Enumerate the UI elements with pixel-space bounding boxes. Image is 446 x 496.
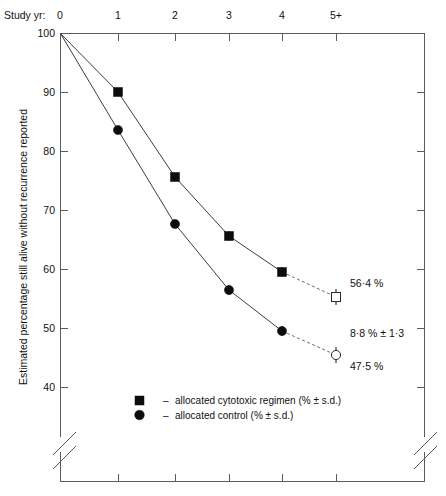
y-tick-label-90: 90 — [43, 86, 55, 98]
legend-marker-square-icon — [135, 396, 144, 405]
data-point-control-yr4 — [277, 326, 286, 335]
legend: – allocated cytotoxic regimen (% ± s.d.)… — [135, 395, 341, 421]
chart-canvas: Study yr: 0 1 2 3 4 5+ — [0, 0, 446, 496]
data-point-cytotoxic-yr4 — [278, 268, 287, 277]
data-point-cytotoxic-yr1 — [114, 88, 123, 97]
y-tick-label-60: 60 — [43, 263, 55, 275]
data-point-control-yr2 — [170, 219, 179, 228]
annotation-upper-endpoint: 56·4 % — [350, 277, 383, 289]
x-tick-label-4: 4 — [279, 9, 285, 21]
survival-curve-figure: Study yr: 0 1 2 3 4 5+ — [0, 0, 446, 496]
series-control — [61, 34, 341, 364]
data-point-cytotoxic-yr3 — [225, 232, 234, 241]
data-point-control-yr3 — [224, 285, 233, 294]
axis-break-left — [53, 432, 76, 469]
x-tick-label-3: 3 — [226, 9, 232, 21]
y-axis-ticks-left — [61, 93, 69, 388]
x-axis-title: Study yr: — [4, 9, 45, 21]
x-tick-label-1: 1 — [115, 9, 121, 21]
x-tick-label-5: 5+ — [330, 9, 342, 21]
series-cytotoxic-regimen — [61, 34, 341, 306]
y-axis-title: Estimated percentage still alive without… — [17, 109, 29, 385]
x-tick-label-2: 2 — [172, 9, 178, 21]
x-axis-ticks-top — [119, 34, 337, 42]
axis-break-right — [414, 432, 437, 469]
series-cytotoxic-dashed-line — [282, 272, 336, 297]
annotation-lower-endpoint: 47·5 % — [350, 360, 383, 372]
x-axis-ticks-bottom — [119, 474, 337, 482]
data-point-cytotoxic-yr5plus — [332, 293, 341, 302]
legend-label-control: allocated control (% ± s.d.) — [175, 410, 293, 421]
legend-dash-0: – — [163, 395, 169, 406]
y-tick-label-100: 100 — [37, 27, 55, 39]
series-control-dashed-line — [282, 331, 336, 355]
legend-dash-1: – — [163, 410, 169, 421]
legend-label-cytotoxic: allocated cytotoxic regimen (% ± s.d.) — [175, 395, 341, 406]
x-tick-label-0: 0 — [57, 9, 63, 21]
series-cytotoxic-error-bars — [118, 88, 336, 305]
series-cytotoxic-solid-line — [61, 34, 283, 273]
y-tick-label-80: 80 — [43, 145, 55, 157]
series-control-error-bars — [118, 126, 336, 363]
y-tick-label-40: 40 — [43, 381, 55, 393]
data-point-cytotoxic-yr2 — [171, 173, 180, 182]
series-control-solid-line — [61, 34, 283, 332]
legend-marker-circle-icon — [135, 410, 145, 420]
annotation-difference: 8·8 % ± 1·3 — [350, 327, 404, 339]
y-axis-ticks-right — [417, 93, 425, 388]
data-point-control-yr5plus — [331, 350, 340, 359]
y-tick-label-70: 70 — [43, 204, 55, 216]
y-tick-label-50: 50 — [43, 322, 55, 334]
data-point-control-yr1 — [113, 125, 122, 134]
